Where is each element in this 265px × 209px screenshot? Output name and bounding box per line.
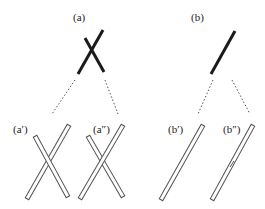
dotted-connectors bbox=[52, 80, 250, 114]
connector-a-left bbox=[52, 80, 75, 114]
figure-a-crossing-lines bbox=[78, 30, 104, 74]
figure-b-single-line bbox=[211, 31, 235, 74]
label-b: (b) bbox=[191, 11, 204, 24]
figure-b-prime-rod bbox=[162, 127, 202, 198]
connector-b-left bbox=[198, 80, 213, 114]
label-b-prime: (b′) bbox=[168, 123, 184, 136]
figure-b-double-prime-rod bbox=[213, 127, 252, 198]
diagram-canvas: (a) (b) (a′) (a″) (b′) (b″) bbox=[0, 0, 265, 209]
figure-a-prime-rods bbox=[28, 127, 68, 197]
line-a-1 bbox=[78, 30, 103, 74]
connector-b-right bbox=[232, 80, 250, 114]
figure-a-double-prime-rods bbox=[81, 127, 122, 197]
label-a-double-prime: (a″) bbox=[93, 123, 110, 136]
label-b-double-prime: (b″) bbox=[223, 123, 241, 136]
label-a: (a) bbox=[73, 11, 86, 24]
label-a-prime: (a′) bbox=[13, 123, 28, 136]
line-b bbox=[211, 31, 235, 74]
connector-a-right bbox=[105, 80, 118, 114]
